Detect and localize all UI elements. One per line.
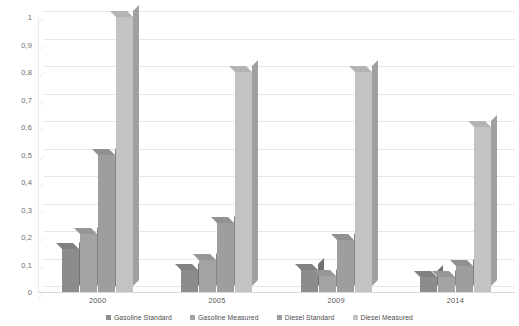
plot-area [38, 6, 515, 294]
bar-2005-gasoline-measured [199, 260, 216, 292]
y-axis: 00,10,20,30,40,50,60,70,80,91 [0, 0, 38, 300]
bar-side [491, 115, 497, 286]
bar-2014-diesel-standard [456, 266, 473, 292]
y-axis-tick-label: 0,4 [21, 178, 32, 187]
bar-side [252, 60, 258, 286]
bar-face [438, 277, 455, 292]
bar-side [133, 5, 139, 286]
bar-face [199, 260, 216, 292]
bar-face [301, 270, 318, 292]
legend-item-diesel-standard[interactable]: Diesel Standard [277, 314, 335, 321]
bar-2009-gasoline-measured [319, 276, 336, 293]
x-axis-tick-label: 2005 [208, 296, 226, 305]
legend-label: Gasoline Measured [198, 314, 259, 321]
bar-face [319, 276, 336, 293]
y-axis-tick-label: 0 [28, 288, 32, 297]
x-axis: 2000200520092014 [38, 296, 515, 310]
legend-label: Gasoline Standard [114, 314, 172, 321]
y-axis-tick-label: 0,5 [21, 150, 32, 159]
bar-face [62, 249, 79, 292]
bar-face [235, 72, 252, 292]
bar-2009-diesel-measured [355, 72, 372, 292]
legend-swatch-icon [106, 315, 111, 320]
legend-swatch-icon [190, 315, 195, 320]
bar-face [474, 127, 491, 292]
bar-face [355, 72, 372, 292]
bar-face [98, 155, 115, 293]
legend-item-gasoline-measured[interactable]: Gasoline Measured [190, 314, 259, 321]
bar-2000-gasoline-standard [62, 249, 79, 292]
legend-label: Diesel Measured [361, 314, 414, 321]
y-axis-tick-label: 0,9 [21, 40, 32, 49]
legend-label: Diesel Standard [285, 314, 335, 321]
bar-2014-diesel-measured [474, 127, 491, 292]
bar-chart: 00,10,20,30,40,50,60,70,80,91 2000200520… [0, 0, 519, 326]
bar-2014-gasoline-standard [420, 277, 437, 292]
legend-swatch-icon [353, 315, 358, 320]
bar-2005-gasoline-standard [181, 270, 198, 292]
bar-2000-diesel-standard [98, 155, 115, 293]
chart-legend: Gasoline StandardGasoline MeasuredDiesel… [0, 310, 519, 324]
y-axis-tick-label: 0,8 [21, 68, 32, 77]
legend-swatch-icon [277, 315, 282, 320]
bar-2000-gasoline-measured [80, 234, 97, 292]
bar-2009-diesel-standard [337, 240, 354, 292]
bar-face [217, 223, 234, 292]
legend-item-diesel-measured[interactable]: Diesel Measured [353, 314, 414, 321]
bar-face [80, 234, 97, 292]
x-axis-tick-label: 2009 [327, 296, 345, 305]
bar-face [181, 270, 198, 292]
bar-2005-diesel-measured [235, 72, 252, 292]
y-axis-tick-label: 0,2 [21, 233, 32, 242]
bar-face [420, 277, 437, 292]
x-axis-tick-label: 2014 [447, 296, 465, 305]
bar-side [372, 60, 378, 286]
y-axis-tick-label: 1 [28, 13, 32, 22]
y-axis-tick-label: 0,1 [21, 260, 32, 269]
y-axis-tick-label: 0,7 [21, 95, 32, 104]
bar-face [337, 240, 354, 292]
y-axis-tick-label: 0,3 [21, 205, 32, 214]
bar-2005-diesel-standard [217, 223, 234, 292]
x-axis-tick-label: 2000 [89, 296, 107, 305]
bar-face [456, 266, 473, 292]
bar-face [116, 17, 133, 292]
bars-layer [38, 6, 515, 294]
bar-2000-diesel-measured [116, 17, 133, 292]
bar-2009-gasoline-standard [301, 270, 318, 292]
bar-2014-gasoline-measured [438, 277, 455, 292]
y-axis-tick-label: 0,6 [21, 123, 32, 132]
legend-item-gasoline-standard[interactable]: Gasoline Standard [106, 314, 172, 321]
